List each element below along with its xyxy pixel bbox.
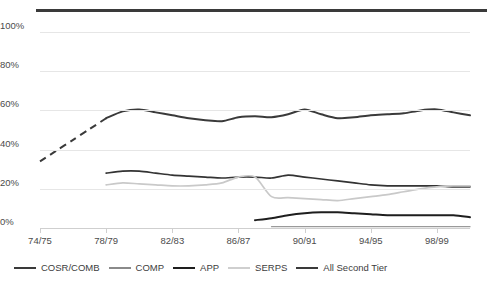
- y-tick-label: 20%: [0, 177, 34, 188]
- x-tick-label: 74/75: [28, 235, 52, 246]
- gridline-80%: [40, 71, 470, 72]
- gridline-100%: [40, 32, 470, 33]
- y-tick-label: 60%: [0, 98, 34, 109]
- x-axis-line: [40, 228, 470, 229]
- legend-label: All Second Tier: [323, 262, 387, 273]
- legend-item-cosr-comb[interactable]: COSR/COMB: [14, 262, 100, 273]
- legend-label: SERPS: [255, 262, 287, 273]
- legend-line-swatch-icon: [109, 267, 131, 269]
- series-line-app: [255, 212, 470, 220]
- legend-line-swatch-icon: [173, 267, 195, 269]
- x-tick-label: 86/87: [227, 235, 251, 246]
- legend-item-app[interactable]: APP: [173, 262, 219, 273]
- gridline-60%: [40, 110, 470, 111]
- gridline-40%: [40, 150, 470, 151]
- x-tick-mark: [106, 228, 107, 233]
- legend-label: COSR/COMB: [41, 262, 100, 273]
- x-tick-mark: [437, 228, 438, 233]
- legend-item-comp[interactable]: COMP: [109, 262, 165, 273]
- series-paths: [40, 32, 470, 228]
- y-tick-label: 100%: [0, 20, 34, 31]
- x-tick-mark: [40, 228, 41, 233]
- x-tick-label: 90/91: [293, 235, 317, 246]
- x-tick-mark: [238, 228, 239, 233]
- line-chart: 0%20%40%60%80%100% 74/7578/7982/8386/879…: [0, 0, 487, 293]
- legend-label: APP: [200, 262, 219, 273]
- cut-off-title: [36, 0, 487, 8]
- x-tick-label: 94/95: [359, 235, 383, 246]
- plot-area: [40, 32, 470, 228]
- legend-line-swatch-icon: [296, 267, 318, 269]
- y-tick-label: 80%: [0, 59, 34, 70]
- x-tick-label: 78/79: [94, 235, 118, 246]
- series-line-cosr-comb-dashed: [40, 118, 106, 161]
- x-tick-label: 98/99: [425, 235, 449, 246]
- x-tick-mark: [305, 228, 306, 233]
- legend-label: COMP: [136, 262, 165, 273]
- y-tick-label: 0%: [0, 216, 34, 227]
- chart-legend: COSR/COMBCOMPAPPSERPSAll Second Tier: [14, 262, 396, 273]
- x-tick-mark: [172, 228, 173, 233]
- legend-line-swatch-icon: [14, 267, 36, 269]
- gridline-20%: [40, 189, 470, 190]
- legend-line-swatch-icon: [228, 267, 250, 269]
- x-tick-label: 82/83: [160, 235, 184, 246]
- legend-item-all-second-tier[interactable]: All Second Tier: [296, 262, 387, 273]
- x-tick-mark: [371, 228, 372, 233]
- legend-item-serps[interactable]: SERPS: [228, 262, 287, 273]
- y-tick-label: 40%: [0, 138, 34, 149]
- top-divider-rule: [36, 9, 487, 12]
